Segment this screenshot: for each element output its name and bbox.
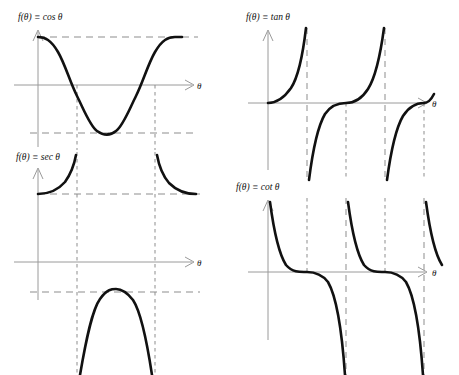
trig-functions-figure: f(θ) ≡ cos θ θ f(θ) ≡ sec θ θ xyxy=(0,0,459,375)
panel-secant: f(θ) ≡ sec θ θ xyxy=(14,152,202,375)
tangent-branch-1 xyxy=(268,28,306,103)
cotangent-theta-label: θ xyxy=(432,268,437,278)
secant-function-label: f(θ) ≡ sec θ xyxy=(16,152,60,163)
tangent-function-label: f(θ) ≡ tan θ xyxy=(246,12,290,23)
tangent-theta-label: θ xyxy=(432,99,437,109)
cotangent-branch-3 xyxy=(426,202,442,265)
secant-branch-middle xyxy=(80,289,152,375)
secant-branch-right xyxy=(157,155,196,194)
secant-theta-label: θ xyxy=(197,258,202,268)
tangent-branch-2 xyxy=(309,28,384,180)
panel-tangent: f(θ) ≡ tan θ θ xyxy=(246,12,437,180)
cosine-function-label: f(θ) ≡ cos θ xyxy=(18,12,63,23)
panel-cotangent: f(θ) ≡ cot θ θ xyxy=(236,182,442,375)
tangent-branch-3 xyxy=(387,94,434,180)
panel-cosine: f(θ) ≡ cos θ θ xyxy=(14,12,202,150)
cosine-curve xyxy=(38,37,182,135)
cotangent-function-label: f(θ) ≡ cot θ xyxy=(236,182,280,193)
cosine-theta-label: θ xyxy=(197,81,202,91)
